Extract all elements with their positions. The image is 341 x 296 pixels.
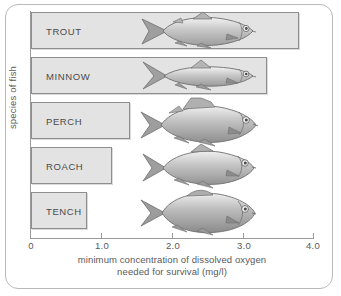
bar-label-tench: TENCH [46,205,82,216]
fish-oxygen-chart-figure: species of fish TROUT MINNOW PERCH ROACH… [0,0,341,296]
x-tick-mark-2 [172,233,173,238]
bar-label-perch: PERCH [46,115,82,126]
x-tick-mark-4 [313,233,314,238]
x-axis-title: minimum concentration of dissolved oxyge… [30,254,314,278]
x-axis-title-line2: needed for survival (mg/l) [30,266,314,278]
bar-label-roach: ROACH [46,160,83,171]
x-axis-title-line1: minimum concentration of dissolved oxyge… [30,254,314,266]
x-tick-mark-3 [243,233,244,238]
bar-tench: TENCH [31,192,87,229]
bar-label-minnow: MINNOW [46,70,90,81]
bar-trout: TROUT [31,12,299,49]
plot-area: TROUT MINNOW PERCH ROACH TENCH [31,12,313,237]
bar-perch: PERCH [31,102,130,139]
perch-illustration [139,96,259,148]
x-tick-label-1: 1.0 [95,240,109,251]
x-tick-label-4: 4.0 [306,240,320,251]
bar-roach: ROACH [31,147,112,184]
x-tick-mark-0 [30,233,31,238]
x-tick-label-0: 0 [28,240,33,251]
x-tick-mark-1 [101,233,102,238]
x-axis-line [30,238,314,239]
bar-label-trout: TROUT [46,25,82,36]
tench-illustration [139,186,257,236]
bar-minnow: MINNOW [31,57,267,94]
x-tick-label-2: 2.0 [166,240,180,251]
x-tick-label-3: 3.0 [237,240,251,251]
y-axis-title: species of fish [7,38,18,158]
roach-illustration [141,142,257,190]
